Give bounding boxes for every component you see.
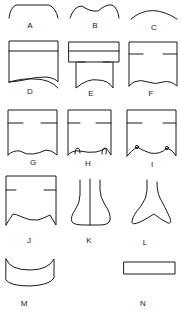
panel-i: I bbox=[127, 110, 176, 169]
panel-g: G bbox=[8, 110, 57, 167]
shape-d-outline bbox=[9, 41, 58, 82]
panel-e: E bbox=[69, 42, 119, 98]
panel-n: N bbox=[124, 262, 175, 308]
panel-h: H bbox=[68, 110, 111, 168]
label-f: F bbox=[149, 89, 154, 98]
label-e: E bbox=[88, 89, 93, 98]
shape-j-outline bbox=[6, 176, 56, 225]
shape-e-top-block bbox=[69, 42, 119, 62]
label-d: D bbox=[27, 87, 33, 96]
label-b: B bbox=[92, 21, 97, 30]
label-l: L bbox=[143, 238, 148, 247]
label-m: M bbox=[21, 299, 28, 308]
shape-f-outline bbox=[129, 42, 177, 86]
shape-diagram: A B C D E F G H bbox=[0, 0, 181, 310]
label-j: J bbox=[27, 236, 31, 245]
panel-l: L bbox=[132, 180, 171, 247]
shape-g-outline bbox=[8, 110, 57, 155]
panel-d: D bbox=[9, 41, 58, 96]
label-h: H bbox=[85, 159, 91, 168]
panel-j: J bbox=[6, 176, 56, 245]
panel-a: A bbox=[9, 5, 58, 30]
panel-f: F bbox=[129, 42, 177, 98]
shape-c-arc bbox=[131, 11, 177, 20]
shape-k-outline bbox=[71, 180, 110, 225]
shape-b-double-arch bbox=[70, 5, 119, 18]
panel-c: C bbox=[131, 11, 177, 33]
label-a: A bbox=[27, 21, 33, 30]
shape-n-rectangle bbox=[124, 262, 175, 274]
shape-l-outline bbox=[132, 180, 171, 224]
shape-a-flat-arch bbox=[9, 5, 58, 18]
label-n: N bbox=[140, 299, 146, 308]
label-i: I bbox=[151, 160, 153, 169]
shape-e-body bbox=[76, 62, 113, 88]
panel-m: M bbox=[6, 259, 54, 308]
label-c: C bbox=[151, 23, 157, 32]
shape-d-outline-fix bbox=[9, 79, 58, 88]
label-k: K bbox=[86, 236, 92, 245]
panel-b: B bbox=[70, 5, 119, 30]
shape-m-curved-block bbox=[6, 259, 54, 286]
panel-k: K bbox=[71, 179, 110, 245]
label-g: G bbox=[30, 158, 36, 167]
